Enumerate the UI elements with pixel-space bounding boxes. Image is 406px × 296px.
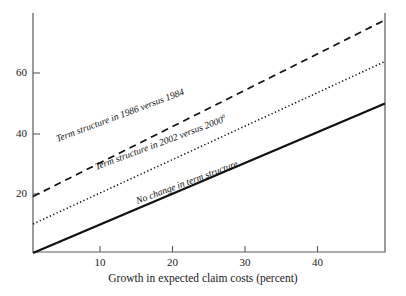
plot-area xyxy=(0,0,406,296)
y-tick-marks xyxy=(33,73,40,194)
x-tick-label-20: 20 xyxy=(158,256,188,268)
x-tick-label-30: 30 xyxy=(230,256,260,268)
x-tick-label-10: 10 xyxy=(85,256,115,268)
y-tick-label-20: 20 xyxy=(5,187,27,199)
y-tick-label-60: 60 xyxy=(5,66,27,78)
x-tick-label-40: 40 xyxy=(303,256,333,268)
x-axis-title: Growth in expected claim costs (percent) xyxy=(0,272,406,284)
chart-figure: 60 40 20 10 20 30 40 Growth in expected … xyxy=(0,0,406,296)
y-tick-label-40: 40 xyxy=(5,127,27,139)
x-tick-marks xyxy=(100,246,318,252)
series-line-dotted xyxy=(33,62,385,225)
